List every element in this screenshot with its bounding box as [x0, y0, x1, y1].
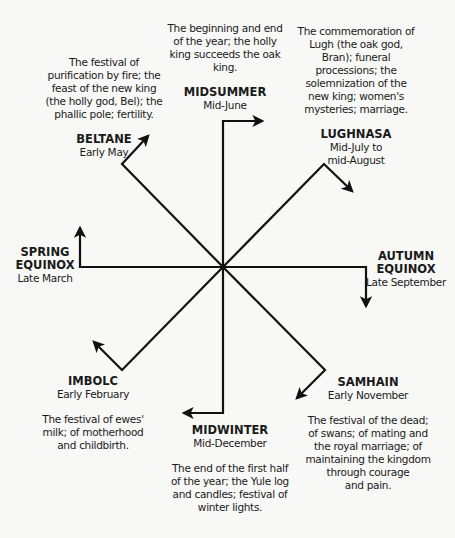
- arrow-imbolc: [94, 267, 223, 370]
- festival-samhain: SAMHAIN Early November The festival of t…: [300, 376, 436, 492]
- festival-name: BELTANE: [42, 133, 166, 146]
- festival-autumn-equinox: AUTUMN EQUINOX Late September: [362, 250, 450, 289]
- arrow-autumn-equinox: [223, 267, 366, 306]
- arrow-spring-equinox: [80, 228, 223, 267]
- festival-name: AUTUMN EQUINOX: [362, 250, 450, 276]
- festival-date: Early May: [42, 146, 166, 159]
- festival-spring-equinox: SPRING EQUINOX Late March: [10, 246, 80, 285]
- festival-description: The commemoration of Lugh (the oak god, …: [292, 25, 420, 116]
- festival-date: Mid-June: [150, 99, 300, 112]
- festival-date: Late March: [10, 272, 80, 285]
- festival-imbolc: IMBOLC Early February The festival of ew…: [38, 375, 148, 452]
- festival-description: The end of the first half of the year; t…: [160, 462, 300, 514]
- festival-description: The beginning and end of the year; the h…: [150, 22, 300, 74]
- festival-lughnasa: The commemoration of Lugh (the oak god, …: [292, 25, 420, 167]
- festival-name: IMBOLC: [38, 375, 148, 388]
- arrow-lughnasa: [223, 164, 352, 267]
- festival-date: Early February: [38, 388, 148, 401]
- festival-date: Late September: [362, 276, 450, 289]
- festival-date: Mid-July to mid-August: [292, 141, 420, 167]
- festival-description: The festival of purification by fire; th…: [42, 56, 166, 121]
- arrow-midwinter: [184, 267, 223, 413]
- festival-name: SPRING EQUINOX: [10, 246, 80, 272]
- festival-description: The festival of ewes' milk; of motherhoo…: [38, 413, 148, 452]
- festival-name: MIDWINTER: [160, 424, 300, 437]
- festival-midwinter: MIDWINTER Mid-December The end of the fi…: [160, 424, 300, 514]
- festival-beltane: The festival of purification by fire; th…: [42, 56, 166, 159]
- arrow-midsummer: [223, 121, 262, 267]
- festival-date: Mid-December: [160, 437, 300, 450]
- festival-name: MIDSUMMER: [150, 86, 300, 99]
- festival-description: The festival of the dead; of swans; of m…: [300, 414, 436, 492]
- festival-name: LUGHNASA: [292, 128, 420, 141]
- festival-date: Early November: [300, 389, 436, 402]
- wheel-center: [221, 265, 225, 269]
- festival-name: SAMHAIN: [300, 376, 436, 389]
- festival-midsummer: The beginning and end of the year; the h…: [150, 22, 300, 112]
